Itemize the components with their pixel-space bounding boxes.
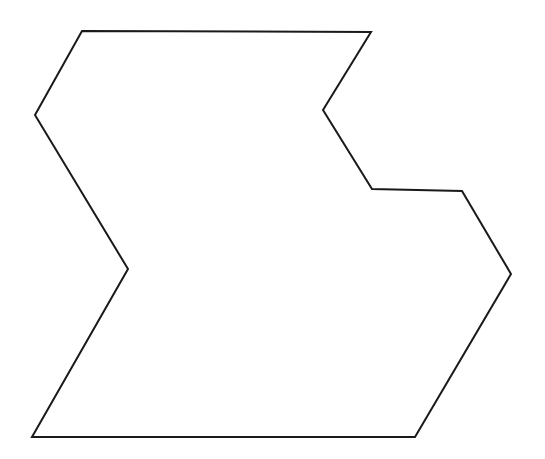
shape-canvas bbox=[0, 0, 545, 459]
concave-polygon-outline bbox=[32, 31, 511, 437]
polygon-svg bbox=[0, 0, 545, 459]
